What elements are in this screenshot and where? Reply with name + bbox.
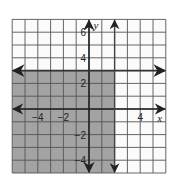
x-tick-label: 4 xyxy=(137,112,143,123)
x-tick-label: −2 xyxy=(58,112,70,123)
x-tick-label: −4 xyxy=(32,112,44,123)
y-tick-label: −4 xyxy=(75,155,87,166)
x-axis-label: x xyxy=(156,112,162,124)
y-axis-label: y xyxy=(93,19,99,31)
y-tick-label: 4 xyxy=(80,53,86,64)
coordinate-plane-graph: −4−24642−2−4xy xyxy=(0,0,174,187)
y-tick-label: −2 xyxy=(75,130,87,141)
y-tick-label: 6 xyxy=(80,27,86,38)
y-tick-label: 2 xyxy=(80,78,86,89)
